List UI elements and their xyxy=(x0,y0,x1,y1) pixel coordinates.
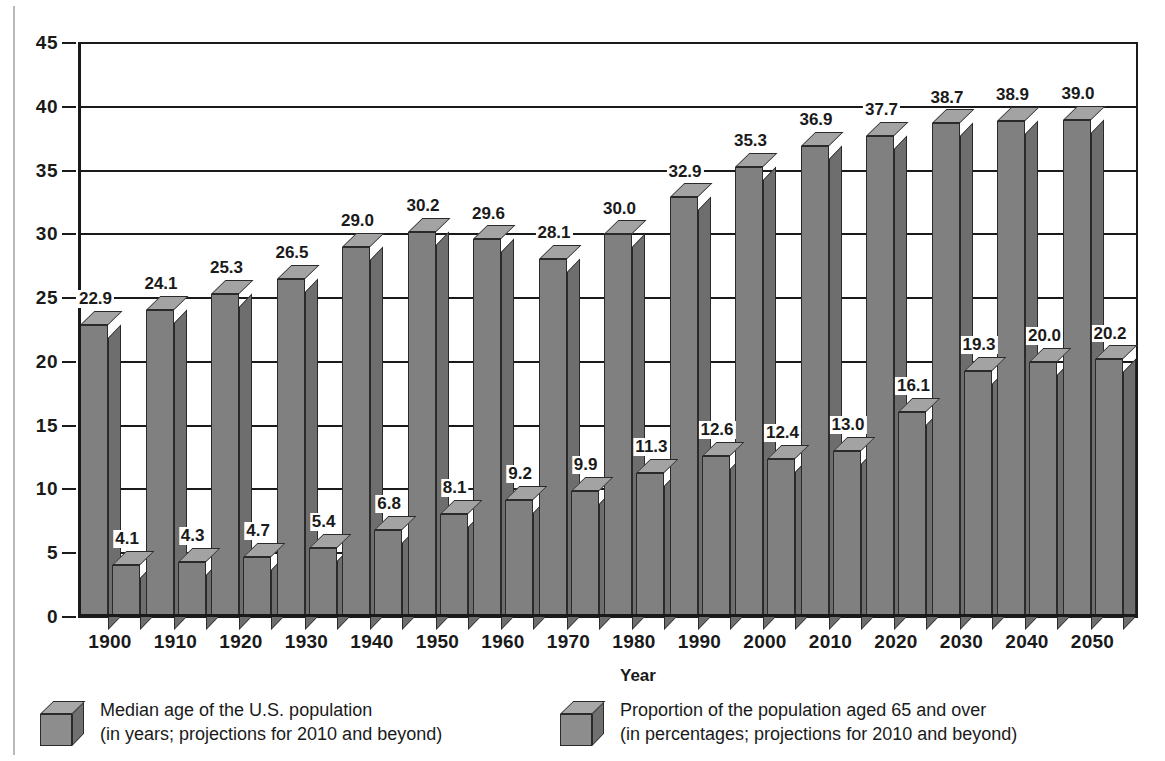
bar[interactable]: 22.9 xyxy=(80,325,108,617)
y-axis-tick xyxy=(62,233,76,235)
plot-area: 454035302520151050 22.94.124.14.325.34.7… xyxy=(78,43,1138,617)
bar-front-face xyxy=(440,514,468,617)
y-tick-label: 10 xyxy=(36,478,58,500)
bar[interactable]: 37.7 xyxy=(866,136,894,617)
legend-label-line2: (in percentages; projections for 2010 an… xyxy=(620,723,1017,747)
bar-value-label: 39.0 xyxy=(1059,85,1096,103)
bar-front-face xyxy=(801,146,829,617)
bar-front-face xyxy=(702,456,730,617)
bar-value-label: 38.7 xyxy=(928,89,965,107)
cube-front-face xyxy=(40,714,72,746)
legend-label: Proportion of the population aged 65 and… xyxy=(620,699,1017,747)
bar[interactable]: 38.9 xyxy=(997,121,1025,617)
x-tick-label-1940: 1940 xyxy=(350,631,393,653)
bar-group: 39.020.2 xyxy=(1063,43,1137,617)
cube-icon xyxy=(40,698,84,748)
y-tick-label: 30 xyxy=(36,223,58,245)
bar-value-label: 36.9 xyxy=(797,111,834,129)
bar[interactable]: 35.3 xyxy=(735,167,763,617)
bar-front-face xyxy=(539,259,567,617)
x-tick-label-2010: 2010 xyxy=(809,631,852,653)
bar-front-face xyxy=(1063,120,1091,617)
bar-value-label: 20.0 xyxy=(1026,327,1063,345)
bar[interactable]: 28.1 xyxy=(539,259,567,617)
bar[interactable]: 5.4 xyxy=(309,548,337,617)
bar-front-face xyxy=(636,473,664,617)
bar[interactable]: 13.0 xyxy=(833,451,861,617)
bar[interactable]: 29.0 xyxy=(342,247,370,617)
bar-value-label: 20.2 xyxy=(1091,325,1128,343)
bar-value-label: 24.1 xyxy=(142,275,179,293)
legend-label: Median age of the U.S. population(in yea… xyxy=(100,699,442,747)
bar[interactable]: 29.6 xyxy=(473,239,501,617)
y-tick-label: 0 xyxy=(47,606,58,628)
x-tick-label-1980: 1980 xyxy=(612,631,655,653)
legend-entry[interactable]: Median age of the U.S. population(in yea… xyxy=(40,698,442,748)
bar-front-face xyxy=(932,123,960,617)
bar[interactable]: 8.1 xyxy=(440,514,468,617)
bar-group: 26.55.4 xyxy=(277,43,351,617)
bar-group: 22.94.1 xyxy=(80,43,154,617)
bar[interactable]: 36.9 xyxy=(801,146,829,617)
bar-group: 30.011.3 xyxy=(604,43,678,617)
bar[interactable]: 25.3 xyxy=(211,294,239,617)
x-tick-label-2020: 2020 xyxy=(874,631,917,653)
bar[interactable]: 24.1 xyxy=(146,310,174,617)
bar-top-face xyxy=(277,265,319,279)
bar-front-face xyxy=(112,565,140,617)
bar[interactable]: 9.2 xyxy=(505,500,533,617)
bar-value-label: 11.3 xyxy=(633,438,669,456)
bar-value-label: 25.3 xyxy=(208,259,245,277)
legend-entry[interactable]: Proportion of the population aged 65 and… xyxy=(560,698,1017,748)
bar-front-face xyxy=(178,562,206,617)
bar-group: 28.19.9 xyxy=(539,43,613,617)
bar[interactable]: 4.1 xyxy=(112,565,140,617)
bar-group: 30.28.1 xyxy=(408,43,482,617)
bar-front-face xyxy=(80,325,108,617)
bar[interactable]: 38.7 xyxy=(932,123,960,617)
legend-label-line2: (in years; projections for 2010 and beyo… xyxy=(100,723,442,747)
bar-value-label: 38.9 xyxy=(994,86,1031,104)
bar[interactable]: 20.2 xyxy=(1095,359,1123,617)
bar[interactable]: 4.3 xyxy=(178,562,206,617)
chart-legend: Median age of the U.S. population(in yea… xyxy=(0,690,1165,760)
y-tick-label: 25 xyxy=(36,287,58,309)
bar[interactable]: 11.3 xyxy=(636,473,664,617)
bar-value-label: 32.9 xyxy=(666,163,703,181)
bar-value-label: 5.4 xyxy=(310,513,338,531)
bar-front-face xyxy=(1029,362,1057,617)
bar[interactable]: 19.3 xyxy=(964,371,992,617)
x-tick-label-1910: 1910 xyxy=(154,631,197,653)
y-axis-line xyxy=(78,43,81,617)
bar[interactable]: 26.5 xyxy=(277,279,305,617)
bar-value-label: 19.3 xyxy=(960,336,997,354)
bar-group: 37.716.1 xyxy=(866,43,940,617)
bar[interactable]: 30.2 xyxy=(408,232,436,617)
bar[interactable]: 20.0 xyxy=(1029,362,1057,617)
bar[interactable]: 30.0 xyxy=(604,234,632,617)
bar-top-face xyxy=(735,153,777,167)
bar[interactable]: 16.1 xyxy=(898,412,926,617)
bar-front-face xyxy=(374,530,402,617)
bar-front-face xyxy=(146,310,174,617)
bar-value-label: 12.6 xyxy=(698,421,735,439)
bar[interactable]: 4.7 xyxy=(243,557,271,617)
bar-front-face xyxy=(767,459,795,617)
y-axis-tick xyxy=(62,361,76,363)
bar[interactable]: 6.8 xyxy=(374,530,402,617)
y-axis-tick xyxy=(62,488,76,490)
bar[interactable]: 9.9 xyxy=(571,491,599,617)
bar[interactable]: 32.9 xyxy=(670,197,698,617)
bar-group: 38.719.3 xyxy=(932,43,1006,617)
bar[interactable]: 12.4 xyxy=(767,459,795,617)
bar[interactable]: 39.0 xyxy=(1063,120,1091,617)
y-axis-tick xyxy=(62,106,76,108)
y-axis-tick xyxy=(62,42,76,44)
y-tick-label: 45 xyxy=(36,32,58,54)
bar-value-label: 16.1 xyxy=(895,377,932,395)
bar-front-face xyxy=(833,451,861,617)
x-tick-label-2030: 2030 xyxy=(940,631,983,653)
bar[interactable]: 12.6 xyxy=(702,456,730,617)
bar-group: 25.34.7 xyxy=(211,43,285,617)
bar-group: 29.69.2 xyxy=(473,43,547,617)
